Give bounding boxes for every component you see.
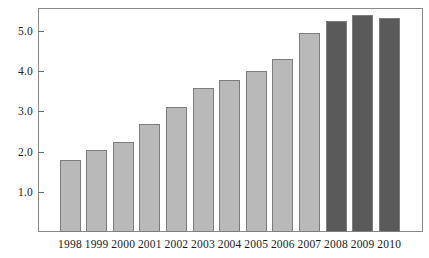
bar-2004 [219,80,240,232]
x-axis-tick-label: 2008 [324,238,348,250]
x-axis-tick-label: 2009 [351,238,375,250]
bar-2007 [299,33,320,232]
bar-2001 [139,124,160,232]
bar-2006 [272,59,293,232]
x-axis-tick-label: 1999 [85,238,109,250]
y-axis-tick-mark [38,111,44,112]
bar-1998 [60,160,81,232]
x-axis-tick-label: 1998 [58,238,82,250]
bar-2010 [379,18,400,232]
bar-chart: 1.02.03.04.05.0 199819992000200120022003… [0,0,429,258]
y-axis-tick-mark [38,71,44,72]
bar-1999 [86,150,107,232]
x-axis-tick-label: 2000 [111,238,135,250]
bar-series [0,0,429,258]
bar-2005 [246,71,267,232]
bar-2000 [113,142,134,232]
x-axis-tick-label: 2010 [377,238,401,250]
x-axis-tick-label: 2002 [164,238,188,250]
y-axis-tick-mark [38,192,44,193]
y-axis-tick-mark [38,152,44,153]
y-axis-tick-mark [38,31,44,32]
x-axis-tick-label: 2007 [297,238,321,250]
x-axis-tick-label: 2001 [138,238,162,250]
bar-2009 [352,15,373,232]
x-axis-tick-label: 2005 [244,238,268,250]
bar-2002 [166,107,187,232]
x-axis-tick-label: 2004 [218,238,242,250]
x-axis-tick-label: 2003 [191,238,215,250]
bar-2003 [193,88,214,232]
bar-2008 [326,21,347,232]
x-axis-tick-label: 2006 [271,238,295,250]
